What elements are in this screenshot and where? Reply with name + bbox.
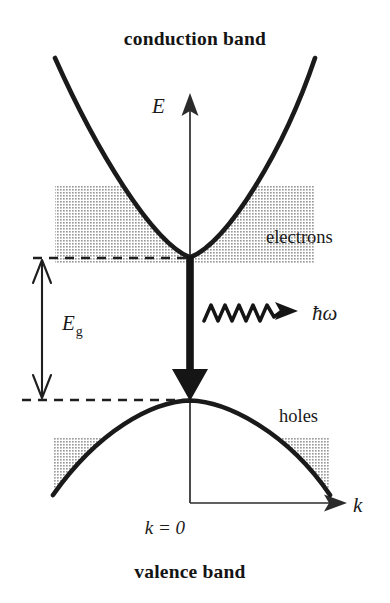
recombination-transition-arrow [172,256,208,401]
band-gap-subscript: g [76,324,83,339]
band-gap-label: Eg [61,311,83,339]
momentum-axis-label: k [353,493,363,517]
valence-band-title: valence band [134,561,245,582]
hole-occupancy-fill [48,437,338,497]
holes-label: holes [279,406,318,426]
momentum-axis [190,495,347,512]
electron-occupancy-fill [50,185,322,263]
band-structure-svg: conduction band valence band electrons h… [0,0,390,603]
conduction-band-title: conduction band [124,28,266,49]
photon-energy-label: ħω [312,301,337,325]
electrons-label: electrons [266,227,333,247]
band-gap-arrow [33,260,51,398]
photon-emission-arrow [204,302,298,321]
k-origin-label: k = 0 [145,517,186,538]
energy-axis-label: E [151,94,165,118]
band-diagram-figure: conduction band valence band electrons h… [0,0,390,603]
k-origin-text: k = 0 [145,517,186,538]
band-gap-symbol: E [61,311,75,335]
